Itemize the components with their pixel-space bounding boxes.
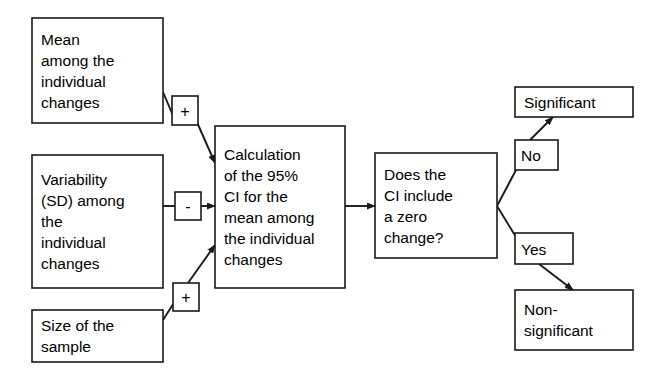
minus-operator-symbol: - — [185, 198, 190, 215]
mean-box-line: Mean — [41, 31, 80, 48]
sample-size-box-line: sample — [41, 338, 91, 355]
decision-box-line: a zero — [384, 208, 427, 225]
branch-labels-layer: NoYes — [515, 140, 573, 264]
decision-box-line: change? — [384, 229, 444, 246]
plus-operator-top: + — [172, 96, 198, 125]
branch-label-yes-text: Yes — [521, 241, 547, 258]
branch-label-no: No — [515, 140, 558, 170]
plus-operator-bottom: + — [173, 283, 199, 311]
plus-operator-top-symbol: + — [180, 103, 189, 120]
edge-decision-to-no — [497, 170, 516, 206]
nodes-layer: Meanamong theindividualchangesVariabilit… — [32, 18, 633, 362]
branch-label-no-text: No — [521, 147, 541, 164]
calculation-box-line: the individual — [224, 230, 314, 247]
flowchart-canvas: Meanamong theindividualchangesVariabilit… — [0, 0, 663, 380]
calculation-box-line: changes — [224, 251, 283, 268]
variability-box-line: individual — [41, 234, 106, 251]
non-significant-outcome-box-line: significant — [524, 322, 594, 339]
non-significant-outcome-box-line: Non- — [524, 301, 558, 318]
branch-label-yes: Yes — [515, 233, 573, 264]
edge-decision-to-yes — [497, 206, 516, 237]
calculation-box-line: mean among — [224, 209, 314, 226]
variability-box-line: changes — [41, 255, 100, 272]
minus-operator: - — [175, 192, 201, 220]
decision-box-line: Does the — [384, 166, 446, 183]
variability-box-line: Variability — [41, 171, 107, 188]
significant-outcome-box: Significant — [515, 87, 633, 117]
plus-operator-bottom-symbol: + — [181, 289, 190, 306]
sample-size-box: Size of thesample — [32, 310, 163, 362]
edge-plus-to-calculation — [196, 120, 215, 163]
calculation-box-line: Calculation — [224, 146, 301, 163]
variability-box-line: (SD) among — [41, 192, 125, 209]
variability-box-line: the — [41, 213, 63, 230]
edge-plus-bottom-to-calculation — [188, 245, 215, 283]
variability-box: Variability(SD) amongtheindividualchange… — [32, 155, 163, 288]
mean-box: Meanamong theindividualchanges — [32, 18, 163, 123]
calculation-box-line: CI for the — [224, 188, 288, 205]
decision-box-line: CI include — [384, 187, 453, 204]
non-significant-outcome-box-rect — [515, 290, 633, 350]
non-significant-outcome-box: Non-significant — [515, 290, 633, 350]
edge-no-to-significant — [530, 117, 553, 140]
calculation-box: Calculationof the 95%CI for themean amon… — [215, 126, 345, 288]
sample-size-box-line: Size of the — [41, 317, 114, 334]
mean-box-line: individual — [41, 73, 106, 90]
edge-yes-to-non-significant — [539, 264, 573, 290]
mean-box-line: among the — [41, 52, 114, 69]
mean-box-line: changes — [41, 94, 100, 111]
flowchart-diagram: Meanamong theindividualchangesVariabilit… — [0, 0, 663, 380]
calculation-box-line: of the 95% — [224, 167, 298, 184]
significant-outcome-box-line: Significant — [524, 94, 596, 111]
operators-layer: +-+ — [172, 96, 201, 311]
decision-box: Does theCI includea zerochange? — [375, 153, 497, 258]
